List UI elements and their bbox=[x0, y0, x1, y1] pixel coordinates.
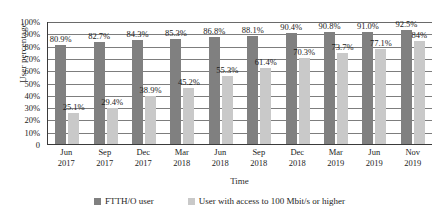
bar-100mbit-user[interactable]: 38.9% bbox=[145, 96, 156, 144]
bar-group: 86.8%55.3% bbox=[202, 22, 240, 144]
x-tick-line: 2019 bbox=[394, 158, 433, 169]
bar-group: 91.0%77.1% bbox=[355, 22, 393, 144]
x-tick-line: Nov bbox=[394, 147, 433, 158]
bar-value-label: 84.3% bbox=[127, 30, 149, 39]
x-tick-line: Sep bbox=[86, 147, 125, 158]
x-tick-label: Mar2019 bbox=[317, 147, 356, 177]
y-tick-label: 40% bbox=[10, 92, 40, 100]
bar-value-label: 61.4% bbox=[255, 58, 277, 67]
bar-group: 90.8%73.7% bbox=[317, 22, 355, 144]
x-tick-label: Jun2017 bbox=[47, 147, 86, 177]
bar-value-label: 90.8% bbox=[319, 22, 341, 31]
bar-100mbit-user[interactable]: 29.4% bbox=[107, 108, 118, 144]
x-tick-line: Dec bbox=[278, 147, 317, 158]
chart-legend: FTTH/O userUser with access to 100 Mbit/… bbox=[0, 196, 439, 206]
x-tick-label: Sep2017 bbox=[86, 147, 125, 177]
bar-group: 90.4%70.3% bbox=[278, 22, 316, 144]
x-tick-line: Jun bbox=[47, 147, 86, 158]
x-axis-ticks: Jun2017Sep2017Dec2017Mar2018Jun2018Sep20… bbox=[47, 147, 432, 177]
y-tick-label: 60% bbox=[10, 67, 40, 75]
bar-value-label: 70.3% bbox=[293, 48, 315, 57]
x-axis-title: Time bbox=[47, 176, 432, 186]
x-tick-line: 2019 bbox=[355, 158, 394, 169]
bar-group: 92.5%84% bbox=[394, 22, 432, 144]
bar-value-label: 86.8% bbox=[203, 27, 225, 36]
x-tick-line: 2018 bbox=[201, 158, 240, 169]
x-tick-label: Dec2018 bbox=[278, 147, 317, 177]
x-tick-line: 2019 bbox=[317, 158, 356, 169]
bar-value-label: 90.4% bbox=[280, 23, 302, 32]
bar-100mbit-user[interactable]: 84% bbox=[414, 41, 425, 144]
bar-group: 82.7%29.4% bbox=[86, 22, 124, 144]
x-tick-label: Dec2017 bbox=[124, 147, 163, 177]
legend-item[interactable]: FTTH/O user bbox=[94, 196, 154, 206]
bar-value-label: 77.1% bbox=[370, 39, 392, 48]
legend-swatch-100mbit-icon bbox=[188, 198, 195, 205]
bar-ftth-user[interactable]: 88.1% bbox=[247, 36, 258, 144]
y-tick-label: 80% bbox=[10, 43, 40, 51]
y-tick-label: 70% bbox=[10, 55, 40, 63]
y-tick-label: 20% bbox=[10, 116, 40, 124]
bar-100mbit-user[interactable]: 77.1% bbox=[375, 49, 386, 144]
x-tick-line: 2017 bbox=[124, 158, 163, 169]
y-axis-ticks: 100%90%80%70%60%50%40%30%20%10%0 bbox=[8, 0, 40, 222]
bar-100mbit-user[interactable]: 45.2% bbox=[183, 88, 194, 144]
y-tick-label: 0 bbox=[10, 141, 40, 149]
bar-ftth-user[interactable]: 92.5% bbox=[401, 30, 412, 144]
x-tick-label: Sep2018 bbox=[240, 147, 279, 177]
bar-group: 84.3%38.9% bbox=[125, 22, 163, 144]
bar-ftth-user[interactable]: 82.7% bbox=[94, 42, 105, 144]
x-tick-line: 2018 bbox=[278, 158, 317, 169]
bar-value-label: 38.9% bbox=[140, 86, 162, 95]
x-tick-line: 2018 bbox=[163, 158, 202, 169]
bar-100mbit-user[interactable]: 55.3% bbox=[222, 76, 233, 144]
bar-groups: 80.9%25.1%82.7%29.4%84.3%38.9%85.3%45.2%… bbox=[48, 22, 432, 144]
bar-value-label: 73.7% bbox=[332, 43, 354, 52]
bar-100mbit-user[interactable]: 73.7% bbox=[337, 53, 348, 144]
bar-value-label: 88.1% bbox=[242, 26, 264, 35]
bar-group: 85.3%45.2% bbox=[163, 22, 201, 144]
x-tick-label: Jun2018 bbox=[201, 147, 240, 177]
x-tick-line: Mar bbox=[317, 147, 356, 158]
bar-value-label: 82.7% bbox=[88, 32, 110, 41]
bar-value-label: 25.1% bbox=[63, 103, 85, 112]
legend-label: User with access to 100 Mbit/s or higher bbox=[199, 196, 345, 206]
y-tick-label: 30% bbox=[10, 104, 40, 112]
x-tick-line: Jun bbox=[355, 147, 394, 158]
legend-label: FTTH/O user bbox=[105, 196, 154, 206]
x-tick-label: Nov2019 bbox=[394, 147, 433, 177]
x-tick-line: 2017 bbox=[47, 158, 86, 169]
x-tick-label: Jun2019 bbox=[355, 147, 394, 177]
bar-ftth-user[interactable]: 86.8% bbox=[209, 37, 220, 144]
x-tick-label: Mar2018 bbox=[163, 147, 202, 177]
y-tick-label: 100% bbox=[10, 18, 40, 26]
bar-ftth-user[interactable]: 80.9% bbox=[55, 45, 66, 145]
plot-area: 80.9%25.1%82.7%29.4%84.3%38.9%85.3%45.2%… bbox=[47, 22, 432, 145]
x-tick-line: Dec bbox=[124, 147, 163, 158]
bar-chart: User percentage 100%90%80%70%60%50%40%30… bbox=[0, 0, 439, 222]
bar-value-label: 80.9% bbox=[50, 35, 72, 44]
x-tick-line: Jun bbox=[201, 147, 240, 158]
bar-100mbit-user[interactable]: 70.3% bbox=[299, 58, 310, 144]
y-tick-label: 50% bbox=[10, 80, 40, 88]
x-tick-line: Sep bbox=[240, 147, 279, 158]
bar-ftth-user[interactable]: 91.0% bbox=[362, 32, 373, 144]
x-tick-line: Mar bbox=[163, 147, 202, 158]
bar-value-label: 92.5% bbox=[395, 20, 417, 29]
bar-group: 88.1%61.4% bbox=[240, 22, 278, 144]
bar-value-label: 91.0% bbox=[357, 22, 379, 31]
bar-value-label: 29.4% bbox=[101, 98, 123, 107]
bar-value-label: 55.3% bbox=[216, 66, 238, 75]
bar-100mbit-user[interactable]: 61.4% bbox=[260, 68, 271, 144]
y-tick-label: 90% bbox=[10, 30, 40, 38]
y-tick-label: 10% bbox=[10, 129, 40, 137]
x-tick-line: 2017 bbox=[86, 158, 125, 169]
bar-value-label: 45.2% bbox=[178, 78, 200, 87]
bar-ftth-user[interactable]: 85.3% bbox=[170, 39, 181, 144]
x-tick-line: 2018 bbox=[240, 158, 279, 169]
bar-100mbit-user[interactable]: 25.1% bbox=[68, 113, 79, 144]
legend-swatch-ftth-icon bbox=[94, 198, 101, 205]
legend-item[interactable]: User with access to 100 Mbit/s or higher bbox=[188, 196, 345, 206]
bar-group: 80.9%25.1% bbox=[48, 22, 86, 144]
bar-value-label: 84% bbox=[412, 31, 428, 40]
